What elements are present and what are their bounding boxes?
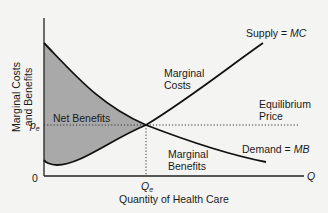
demand-label: Demand = MB — [242, 143, 309, 155]
marginal-benefits-label-line2: Benefits — [168, 160, 206, 172]
equilibrium-quantity-symbol: Qe — [141, 180, 153, 193]
origin-label: 0 — [32, 172, 38, 184]
equilibrium-price-symbol: pe — [29, 119, 40, 132]
net-benefits-area — [44, 43, 146, 165]
marginal-benefits-label-line1: Marginal — [168, 148, 208, 160]
marginal-costs-label-line2: Costs — [164, 79, 191, 91]
net-benefits-label: Net Benefits — [53, 112, 110, 124]
equilibrium-price-label-line2: Price — [259, 110, 283, 122]
x-axis-end-label: Q — [307, 170, 315, 182]
supply-label: Supply = MC — [246, 27, 307, 39]
y-axis-label-line2: and Benefits — [22, 68, 34, 126]
x-axis-label: Quantity of Health Care — [119, 193, 229, 205]
equilibrium-price-label-line1: Equilibrium — [259, 98, 311, 110]
y-axis-label-line1: Marginal Costs — [10, 62, 22, 132]
marginal-costs-label-line1: Marginal — [164, 67, 204, 79]
health-care-diagram: Marginal Costs and Benefits 0 pe Qe Q Qu… — [0, 0, 328, 213]
